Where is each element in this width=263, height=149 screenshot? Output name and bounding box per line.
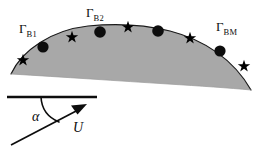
label-alpha-angle: α [32, 110, 39, 124]
velocity-vector-shaft [11, 109, 80, 145]
body-cross-section-shape [11, 25, 251, 90]
label-gamma-bm: ΓBM [216, 20, 237, 36]
gamma-symbol: Γ [86, 5, 94, 20]
figure-root: ΓB1 ΓB2 ΓBM α U [0, 0, 263, 149]
angle-arc [41, 97, 59, 122]
control-point [238, 60, 250, 72]
gamma-symbol: Γ [216, 19, 224, 34]
gamma-subscript: B1 [27, 29, 37, 39]
vortex-node [94, 26, 106, 38]
vortex-node [152, 25, 164, 37]
label-velocity-u: U [73, 121, 83, 135]
label-gamma-b1: ΓB1 [19, 22, 37, 38]
gamma-subscript: BM [224, 27, 238, 37]
gamma-symbol: Γ [19, 21, 27, 36]
vortex-node [214, 45, 225, 56]
gamma-subscript: B2 [94, 13, 104, 23]
vortex-node [37, 41, 48, 52]
label-gamma-b2: ΓB2 [86, 6, 104, 22]
